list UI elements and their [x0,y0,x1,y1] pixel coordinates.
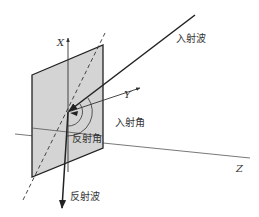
reflection-angle-label: 反射角 [72,133,102,144]
incident-angle-label: 入射角 [115,117,145,128]
reflected-wave-label: 反射波 [70,190,100,202]
reflection-diagram: X Y Z 入射波 反射波 入射角 反射角 [0,0,259,217]
z-axis-label: Z [235,163,244,174]
incident-wave-label: 入射波 [176,32,206,44]
x-axis-label: X [56,37,65,48]
